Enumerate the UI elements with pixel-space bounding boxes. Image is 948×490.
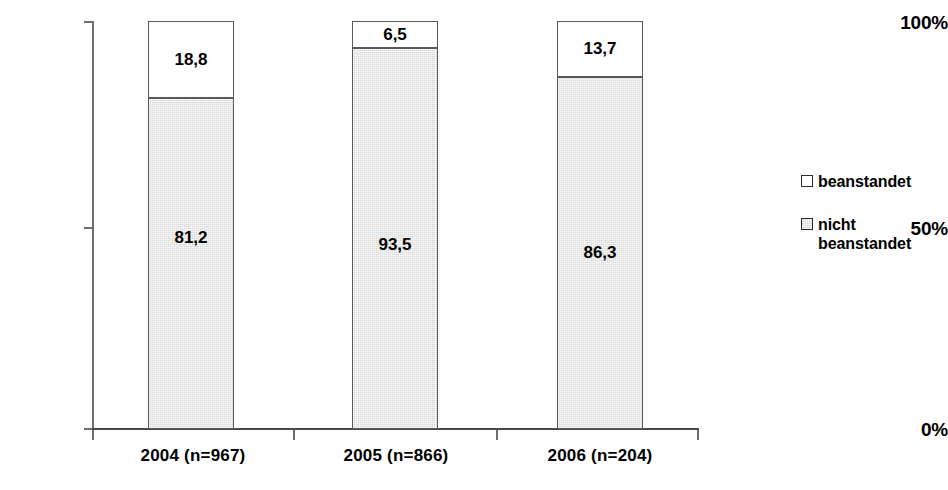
stacked-bar-chart: 100% 50% 0% 18,8 81,2 2004 (n=967) 6,5 9… bbox=[0, 0, 948, 490]
legend-item-beanstandet: beanstandet bbox=[801, 172, 941, 191]
bar-2004-label-beanstandet: 18,8 bbox=[149, 50, 233, 70]
legend-label-nicht-beanstandet: nicht beanstandet bbox=[818, 215, 911, 253]
legend-swatch-beanstandet-icon bbox=[801, 175, 813, 187]
legend-item-nicht-beanstandet: nicht beanstandet bbox=[801, 215, 941, 253]
bar-2005-label-beanstandet: 6,5 bbox=[353, 25, 437, 45]
bar-2004: 18,8 81,2 bbox=[148, 21, 234, 429]
legend-swatch-nicht-beanstandet-icon bbox=[801, 218, 813, 230]
bar-2006-label-beanstandet: 13,7 bbox=[558, 39, 642, 59]
x-axis-category-2004: 2004 (n=967) bbox=[93, 446, 293, 466]
bar-2004-label-nicht-beanstandet: 81,2 bbox=[149, 228, 233, 248]
bar-2004-segment-beanstandet: 18,8 bbox=[148, 21, 234, 98]
bar-2005-segment-nicht-beanstandet: 93,5 bbox=[352, 48, 438, 429]
bar-2006: 13,7 86,3 bbox=[557, 21, 643, 429]
legend: beanstandet nicht beanstandet bbox=[801, 172, 941, 277]
bar-2005-segment-beanstandet: 6,5 bbox=[352, 21, 438, 48]
bar-2006-segment-nicht-beanstandet: 86,3 bbox=[557, 77, 643, 429]
x-axis-category-2006: 2006 (n=204) bbox=[500, 446, 700, 466]
bar-2006-segment-beanstandet: 13,7 bbox=[557, 21, 643, 77]
legend-label-beanstandet: beanstandet bbox=[818, 172, 911, 191]
bar-2004-segment-nicht-beanstandet: 81,2 bbox=[148, 98, 234, 429]
bar-2005-label-nicht-beanstandet: 93,5 bbox=[353, 235, 437, 255]
x-axis-category-2005: 2005 (n=866) bbox=[296, 446, 496, 466]
bar-2005: 6,5 93,5 bbox=[352, 21, 438, 429]
bar-2006-label-nicht-beanstandet: 86,3 bbox=[558, 243, 642, 263]
